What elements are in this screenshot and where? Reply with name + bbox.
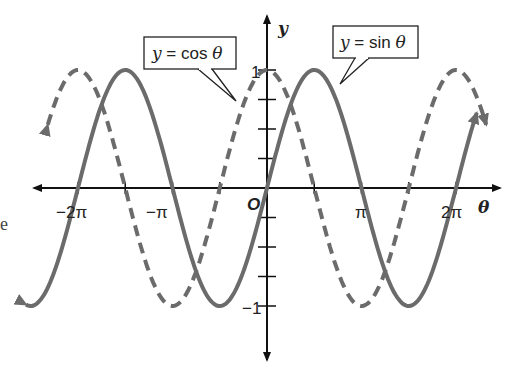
tick-label-2pi: 2π bbox=[441, 203, 462, 222]
x-axis-label: θ bbox=[478, 197, 490, 217]
tick-label-pi: π bbox=[355, 203, 367, 222]
sin-callout: y = sin θ bbox=[333, 26, 418, 84]
y-tick-label-1: 1 bbox=[251, 63, 260, 82]
origin-label: O bbox=[247, 195, 260, 214]
tick-label-neg-pi: −π bbox=[146, 203, 168, 222]
tick-label-neg-2pi: −2π bbox=[56, 203, 87, 222]
sin-callout-label: y = sin θ bbox=[339, 32, 406, 52]
cos-callout: y = cos θ bbox=[144, 37, 236, 101]
cos-callout-label: y = cos θ bbox=[151, 43, 222, 63]
y-axis-label: y bbox=[277, 18, 289, 38]
trig-graph: −2π −π π 2π θ y O 1 −1 y = cos θ y = sin… bbox=[0, 0, 528, 368]
y-tick-label-neg1: −1 bbox=[242, 299, 261, 318]
